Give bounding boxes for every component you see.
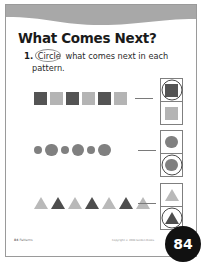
pattern-row-circles bbox=[0, 130, 205, 182]
pattern-shape-circle bbox=[87, 146, 95, 154]
footer-page-ref: 84 bbox=[14, 238, 18, 242]
answer-choice-box-triangles bbox=[160, 183, 183, 230]
answer-choice-circle-small[interactable] bbox=[161, 131, 182, 153]
circled-word-group: Circle bbox=[36, 51, 63, 63]
pattern-shape-triangle bbox=[34, 197, 48, 209]
answer-blank-line bbox=[138, 150, 156, 151]
choice-shape-square bbox=[165, 107, 178, 120]
pattern-shape-circle bbox=[45, 144, 58, 157]
pattern-shape-triangle bbox=[68, 197, 82, 209]
page-title: What Comes Next? bbox=[18, 30, 157, 46]
instruction-block: 1. Circle what comes next in each patter… bbox=[24, 51, 164, 74]
pattern-shape-circle bbox=[34, 146, 42, 154]
choice-shape-triangle bbox=[165, 212, 179, 224]
instruction-text-after: what comes next in each bbox=[63, 51, 168, 61]
pattern-sequence-triangles bbox=[34, 183, 150, 223]
choice-shape-circle bbox=[165, 159, 178, 172]
pattern-shape-triangle bbox=[119, 197, 133, 209]
pattern-shape-circle bbox=[72, 144, 85, 157]
footer-left: 84 Patterns bbox=[14, 238, 33, 242]
page-number-badge: 84 bbox=[165, 226, 201, 262]
pattern-shape-square bbox=[34, 92, 47, 105]
pattern-sequence-squares bbox=[34, 78, 127, 118]
footer-topic-label: Patterns bbox=[19, 238, 32, 242]
answer-choice-circle-big[interactable] bbox=[161, 153, 182, 176]
pattern-shape-square bbox=[98, 92, 111, 105]
pattern-shape-triangle bbox=[102, 197, 116, 209]
answer-blank-line bbox=[138, 203, 156, 204]
answer-choice-triangle-light[interactable] bbox=[161, 184, 182, 206]
pattern-shape-triangle bbox=[51, 197, 65, 209]
answer-choice-box-squares bbox=[160, 78, 183, 125]
worksheet-page: What Comes Next? 1. Circle what comes ne… bbox=[0, 0, 205, 265]
pattern-shape-square bbox=[82, 92, 95, 105]
pattern-shape-square bbox=[114, 92, 127, 105]
answer-blank-line bbox=[135, 98, 153, 99]
footer-copyright: Copyright © 2004 Golden Books bbox=[112, 239, 154, 242]
instruction-circled-word: Circle bbox=[38, 51, 61, 61]
pattern-sequence-circles bbox=[34, 130, 111, 170]
instruction-line-2: pattern. bbox=[32, 63, 164, 75]
pattern-shape-square bbox=[66, 92, 79, 105]
header-banner bbox=[6, 5, 196, 29]
choice-shape-circle bbox=[165, 136, 178, 149]
choice-shape-square bbox=[165, 84, 178, 97]
instruction-number: 1. bbox=[24, 51, 33, 61]
pattern-shape-square bbox=[50, 92, 63, 105]
pattern-shape-circle bbox=[98, 144, 111, 157]
choice-shape-triangle bbox=[165, 189, 179, 201]
pattern-row-squares bbox=[0, 78, 205, 130]
answer-choice-box-circles bbox=[160, 130, 183, 177]
pattern-shape-circle bbox=[61, 146, 69, 154]
pattern-shape-triangle bbox=[85, 197, 99, 209]
answer-choice-square-dark[interactable] bbox=[161, 79, 182, 101]
instruction-line-1: 1. Circle what comes next in each bbox=[24, 51, 164, 63]
answer-choice-square-light[interactable] bbox=[161, 101, 182, 124]
